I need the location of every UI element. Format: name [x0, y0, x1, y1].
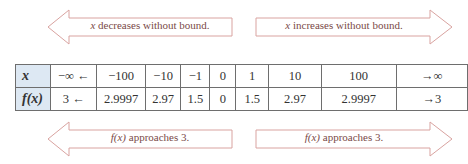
arrow-label: f(x) approaches 3.	[66, 131, 234, 143]
table-cell: 10	[269, 65, 322, 88]
table-cell: →3	[396, 88, 467, 111]
table-cell: 3 ←	[51, 88, 97, 111]
arrow-label: f(x) approaches 3.	[254, 131, 434, 143]
table-row-fx: f(x) 3 ← 2.9997 2.97 1.5 0 1.5 2.97 2.99…	[16, 88, 468, 111]
arrow-fx-approaches-left: f(x) approaches 3.	[46, 120, 234, 158]
arrow-label: x increases without bound.	[254, 19, 434, 31]
table-cell: 0	[210, 65, 236, 88]
table-cell: 2.97	[146, 88, 181, 111]
table-cell: 1	[236, 65, 269, 88]
table-cell: −10	[146, 65, 181, 88]
table-cell: −∞ ←	[51, 65, 97, 88]
table-cell: −100	[97, 65, 146, 88]
arrow-label: x decreases without bound.	[66, 19, 234, 31]
arrow-x-decreases: x decreases without bound.	[46, 8, 234, 46]
arrow-x-increases: x increases without bound.	[254, 8, 454, 46]
table-cell: 1.5	[181, 88, 210, 111]
table-cell: −1	[181, 65, 210, 88]
table-cell: 0	[210, 88, 236, 111]
table-cell: 2.9997	[321, 88, 396, 111]
arrow-fx-approaches-right: f(x) approaches 3.	[254, 120, 454, 158]
values-table: x −∞ ← −100 −10 −1 0 1 10 100 →∞ f(x) 3 …	[15, 64, 468, 111]
table-cell: 2.9997	[97, 88, 146, 111]
table-cell: 1.5	[236, 88, 269, 111]
table-cell: →∞	[396, 65, 467, 88]
row-header-x: x	[16, 65, 51, 88]
table-cell: 2.97	[269, 88, 322, 111]
table-row-x: x −∞ ← −100 −10 −1 0 1 10 100 →∞	[16, 65, 468, 88]
row-header-fx: f(x)	[16, 88, 51, 111]
table-cell: 100	[321, 65, 396, 88]
